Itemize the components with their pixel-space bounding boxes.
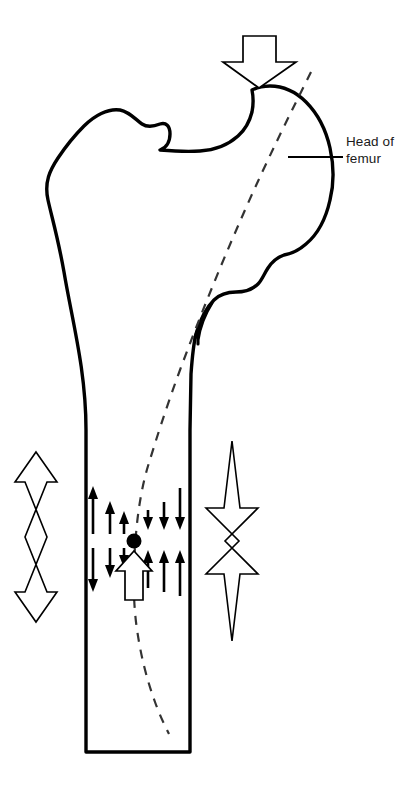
arrowhead-down (159, 517, 169, 530)
tension-double-arrow (15, 452, 57, 622)
arrowhead-down (143, 517, 153, 530)
stress-arrow-cluster (88, 486, 185, 600)
arrowhead-down (175, 517, 185, 530)
femur-bone-outline (47, 86, 333, 752)
arrowhead-down (88, 579, 98, 592)
arrowhead-down (105, 565, 115, 578)
arrowhead-up (119, 511, 129, 524)
down-arrow-hollow-icon (223, 36, 296, 88)
double-arrow-inward-hollow-icon (206, 441, 258, 641)
neutral-axis-dashed-line (134, 72, 311, 734)
arrowhead-up (105, 501, 115, 514)
neutral-axis-point (127, 534, 142, 549)
femur-diagram-svg (0, 0, 420, 801)
double-arrow-outward-hollow-icon (15, 452, 57, 622)
compression-double-arrow (206, 441, 258, 641)
arrowhead-up (159, 550, 169, 563)
femur-outer-contour (47, 86, 333, 752)
applied-load-arrow (223, 36, 296, 88)
stress-arrows-left-upper (88, 486, 129, 534)
stress-arrows-right-lower (143, 550, 185, 596)
arrowhead-up (88, 486, 98, 499)
stress-arrows-right-upper (143, 488, 185, 530)
arrowhead-up (143, 550, 153, 563)
femur-diagram-figure: Head of femur (0, 0, 420, 801)
head-of-femur-label: Head of femur (346, 133, 394, 167)
arrowhead-up (175, 550, 185, 563)
